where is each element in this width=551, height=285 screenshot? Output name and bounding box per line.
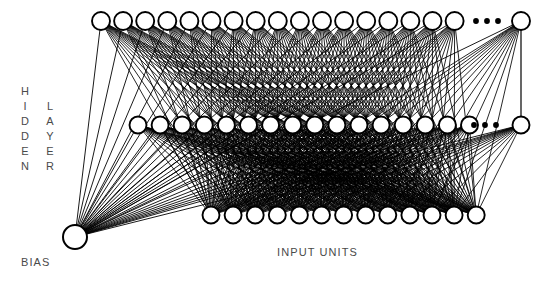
vertical-letter: D xyxy=(18,114,32,129)
unit-node xyxy=(424,207,441,224)
connection-line xyxy=(78,29,122,225)
unit-node xyxy=(335,12,353,30)
ellipsis-dot-middle xyxy=(471,122,477,128)
unit-node xyxy=(335,207,352,224)
unit-node xyxy=(379,207,396,224)
ellipsis-dot-top xyxy=(495,18,501,24)
unit-node xyxy=(284,117,301,134)
unit-node xyxy=(357,207,374,224)
vertical-letter: N xyxy=(18,159,32,174)
unit-node xyxy=(513,117,530,134)
unit-node xyxy=(291,207,308,224)
unit-node xyxy=(446,207,463,224)
unit-node xyxy=(130,117,147,134)
neural-network-graphic xyxy=(0,0,551,285)
diagram-canvas: HIDDEN LAYER BIAS INPUT UNITS xyxy=(0,0,551,285)
unit-node xyxy=(417,117,434,134)
unit-node xyxy=(468,207,485,224)
unit-node xyxy=(357,12,375,30)
ellipsis-dot-top xyxy=(484,18,490,24)
unit-node xyxy=(351,117,368,134)
unit-node xyxy=(262,117,279,134)
bias-label: BIAS xyxy=(21,256,50,268)
unit-node xyxy=(225,207,242,224)
unit-node xyxy=(401,207,418,224)
unit-node xyxy=(439,117,456,134)
input-units-label: INPUT UNITS xyxy=(277,246,358,258)
unit-node xyxy=(247,12,265,30)
vertical-letter: I xyxy=(18,99,32,114)
unit-node xyxy=(203,207,220,224)
unit-node xyxy=(328,117,345,134)
vertical-letter: D xyxy=(18,129,32,144)
vertical-letter: R xyxy=(43,159,57,174)
unit-node xyxy=(114,12,132,30)
ellipsis-dot-middle xyxy=(493,122,499,128)
unit-node xyxy=(218,117,235,134)
unit-node xyxy=(240,117,257,134)
unit-node xyxy=(174,117,191,134)
unit-node xyxy=(269,12,287,30)
unit-node xyxy=(313,207,330,224)
vertical-letter: H xyxy=(18,84,32,99)
unit-node xyxy=(401,12,419,30)
unit-node xyxy=(63,225,87,249)
unit-node xyxy=(313,12,331,30)
unit-node xyxy=(395,117,412,134)
vertical-letter: L xyxy=(43,99,57,114)
unit-node xyxy=(158,12,176,30)
unit-node xyxy=(291,12,309,30)
unit-node xyxy=(203,12,221,30)
unit-node xyxy=(373,117,390,134)
hidden-vertical-label: HIDDEN xyxy=(18,84,32,174)
unit-node xyxy=(379,12,397,30)
unit-node xyxy=(136,12,154,30)
ellipsis-dot-top xyxy=(473,18,479,24)
vertical-letter: E xyxy=(18,144,32,159)
unit-node xyxy=(196,117,213,134)
unit-node xyxy=(180,12,198,30)
unit-node xyxy=(152,117,169,134)
vertical-letter: Y xyxy=(43,129,57,144)
unit-node xyxy=(424,12,442,30)
ellipsis-dot-middle xyxy=(482,122,488,128)
unit-node xyxy=(512,12,530,30)
vertical-letter: E xyxy=(43,144,57,159)
unit-node xyxy=(446,12,464,30)
connection-line xyxy=(478,29,519,207)
unit-node xyxy=(247,207,264,224)
layer-vertical-label: LAYER xyxy=(43,99,57,174)
vertical-letter: A xyxy=(43,114,57,129)
unit-node xyxy=(306,117,323,134)
unit-node xyxy=(269,207,286,224)
unit-node xyxy=(92,12,110,30)
unit-node xyxy=(225,12,243,30)
